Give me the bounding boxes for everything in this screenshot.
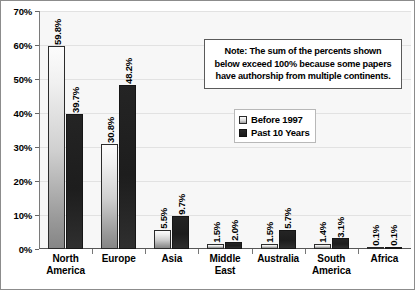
- bar-value-label: 9.7%: [175, 194, 186, 215]
- legend-label-past-10-years: Past 10 Years: [251, 127, 310, 138]
- bar-past-10-years: 0.1%: [385, 247, 402, 249]
- note-line-2: below exceed 100% because some papers: [215, 59, 392, 69]
- bar-past-10-years: 3.1%: [332, 238, 349, 249]
- x-axis-label-line: Europe: [92, 253, 145, 265]
- x-axis-label-line: Middle: [198, 253, 251, 265]
- bar-value-label: 0.1%: [388, 225, 399, 246]
- x-axis-label: MiddleEast: [198, 253, 251, 276]
- chart-legend: Before 1997 Past 10 Years: [234, 109, 316, 143]
- legend-label-before-1997: Before 1997: [251, 114, 303, 125]
- bar-before-1997: 1.5%: [261, 244, 278, 249]
- bar-group: 5.5%9.7%: [145, 11, 198, 249]
- note-callout: Note: The sum of the percents shown belo…: [204, 39, 402, 89]
- bar-value-label: 1.5%: [210, 222, 221, 243]
- x-axis-label-line: Australia: [252, 253, 305, 265]
- y-axis-tick-label: 40%: [0, 108, 32, 119]
- y-axis-tick-mark: [35, 249, 39, 250]
- y-axis-tick-label: 70%: [0, 6, 32, 17]
- x-axis-label: Africa: [358, 253, 411, 265]
- bar-value-label: 5.5%: [157, 208, 168, 229]
- x-axis-label: NorthAmerica: [39, 253, 92, 276]
- legend-item-before-1997: Before 1997: [239, 113, 310, 126]
- bar-past-10-years: 48.2%: [119, 85, 136, 249]
- bar-chart-figure: 0%10%20%30%40%50%60%70% 59.8%39.7%30.8%4…: [0, 0, 415, 290]
- bar-group: 30.8%48.2%: [92, 11, 145, 249]
- bar-value-label: 5.7%: [282, 208, 293, 229]
- bar-value-label: 39.7%: [69, 87, 80, 113]
- x-axis-label-line: America: [305, 265, 358, 277]
- legend-swatch-icon-past-10-years: [239, 129, 247, 137]
- bar-value-label: 1.4%: [317, 222, 328, 243]
- y-axis-tick-label: 50%: [0, 74, 32, 85]
- y-axis-tick-label: 0%: [0, 244, 32, 255]
- bar-before-1997: 1.5%: [207, 244, 224, 249]
- x-axis-label-line: Asia: [145, 253, 198, 265]
- x-axis-label: Europe: [92, 253, 145, 265]
- legend-swatch-icon-before-1997: [239, 116, 247, 124]
- note-line-1: Note: The sum of the percents shown: [225, 46, 382, 56]
- x-axis-label-line: South: [305, 253, 358, 265]
- bar-before-1997: 0.1%: [367, 247, 384, 249]
- bar-value-label: 0.1%: [370, 225, 381, 246]
- y-axis-tick-label: 30%: [0, 142, 32, 153]
- x-axis-label-line: Africa: [358, 253, 411, 265]
- x-axis-label: Australia: [252, 253, 305, 265]
- y-axis-tick-label: 10%: [0, 210, 32, 221]
- bar-before-1997: 1.4%: [314, 244, 331, 249]
- note-line-3: have authorship from multiple continents…: [215, 71, 390, 81]
- bar-before-1997: 59.8%: [48, 46, 65, 249]
- bar-before-1997: 5.5%: [154, 230, 171, 249]
- bar-group: 59.8%39.7%: [39, 11, 92, 249]
- bar-past-10-years: 9.7%: [172, 216, 189, 249]
- bar-past-10-years: 39.7%: [66, 114, 83, 249]
- x-axis-label: Asia: [145, 253, 198, 265]
- bar-value-label: 48.2%: [122, 58, 133, 84]
- bar-past-10-years: 2.0%: [225, 242, 242, 249]
- x-axis-label-line: North: [39, 253, 92, 265]
- bar-before-1997: 30.8%: [101, 144, 118, 249]
- y-axis-tick-label: 60%: [0, 40, 32, 51]
- legend-item-past-10-years: Past 10 Years: [239, 126, 310, 139]
- bar-past-10-years: 5.7%: [279, 230, 296, 249]
- bar-value-label: 2.0%: [228, 220, 239, 241]
- bar-value-label: 3.1%: [335, 217, 346, 238]
- bar-value-label: 1.5%: [264, 222, 275, 243]
- x-axis-label-line: America: [39, 265, 92, 277]
- bar-value-label: 59.8%: [51, 19, 62, 45]
- x-axis-label: SouthAmerica: [305, 253, 358, 276]
- x-axis-label-line: East: [198, 265, 251, 277]
- bar-value-label: 30.8%: [104, 117, 115, 143]
- y-axis-tick-label: 20%: [0, 176, 32, 187]
